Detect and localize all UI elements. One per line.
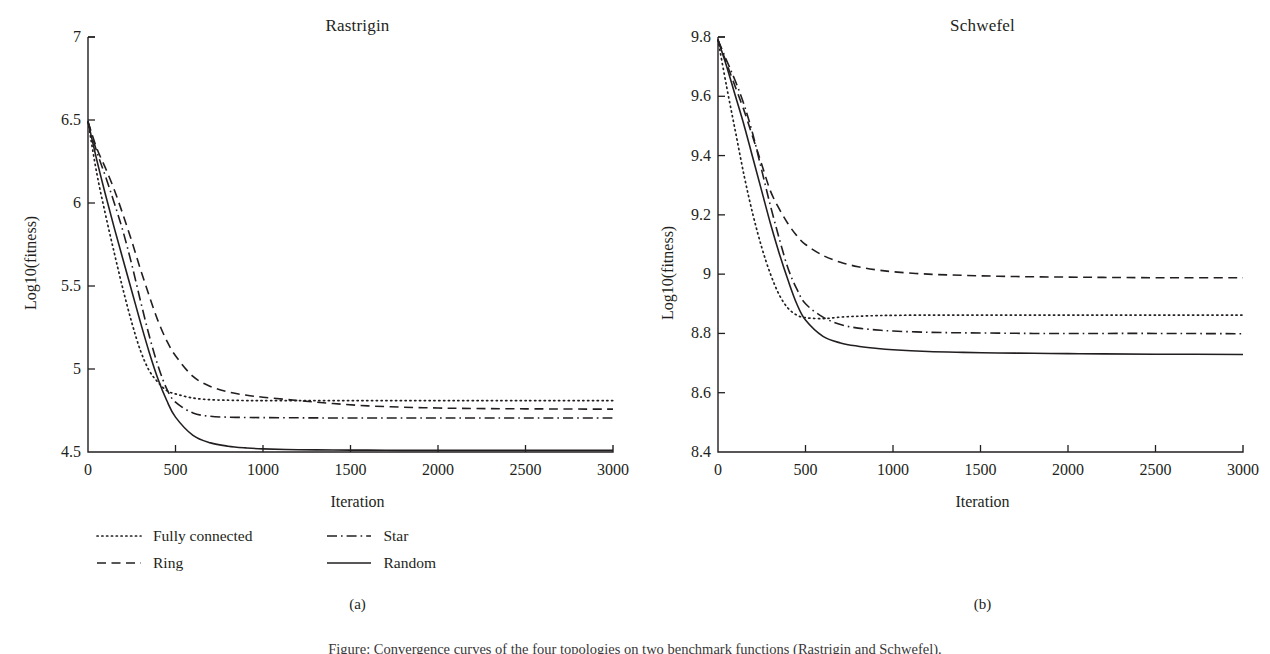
panel-subcaption: (b)	[635, 596, 1270, 613]
chart-panel-schwefel: Schwefel Log10(fitness) 8.48.68.899.29.4…	[635, 0, 1270, 654]
y-tick-label: 4.5	[61, 443, 81, 461]
legend-item-ring[interactable]: Ring	[96, 554, 252, 572]
x-tick-label: 3000	[1227, 461, 1259, 479]
series-line-star	[88, 122, 613, 418]
plot-area: 8.48.68.899.29.49.69.8050010001500200025…	[718, 37, 1243, 452]
figure-container: Rastrigin Log10(fitness) 4.555.566.57050…	[0, 0, 1270, 654]
x-tick-label: 2500	[1140, 461, 1172, 479]
y-tick-label: 8.4	[691, 443, 711, 461]
y-tick-label: 7	[73, 28, 81, 46]
x-tick-label: 2000	[422, 461, 454, 479]
series-line-ring	[718, 40, 1243, 278]
legend-item-star[interactable]: Star	[326, 527, 436, 545]
y-tick-label: 6	[73, 194, 81, 212]
series-line-fully-connected	[88, 122, 613, 401]
legend-label: Star	[383, 527, 408, 545]
panel-subcaption: (a)	[0, 596, 675, 613]
legend-label: Fully connected	[153, 527, 252, 545]
y-tick-label: 9	[703, 265, 711, 283]
x-tick-label: 0	[714, 461, 722, 479]
chart-title: Schwefel	[635, 16, 1270, 36]
series-line-random	[718, 40, 1243, 355]
plot-area: 4.555.566.57050010001500200025003000	[88, 37, 613, 452]
legend-line-dashed-icon	[96, 557, 142, 569]
figure-caption: Figure: Convergence curves of the four t…	[0, 641, 1270, 654]
legend-item-fully-connected[interactable]: Fully connected	[96, 527, 252, 545]
series-line-fully-connected	[718, 40, 1243, 319]
legend-line-solid-icon	[326, 557, 372, 569]
legend-line-dotted-icon	[96, 530, 142, 542]
y-tick-label: 9.8	[691, 28, 711, 46]
x-tick-label: 500	[794, 461, 818, 479]
legend-line-dashdot-icon	[326, 530, 372, 542]
y-axis-label: Log10(fitness)	[659, 226, 677, 320]
y-tick-label: 9.6	[691, 87, 711, 105]
x-tick-label: 1500	[965, 461, 997, 479]
x-tick-label: 1000	[247, 461, 279, 479]
y-tick-label: 9.4	[691, 147, 711, 165]
legend-label: Ring	[153, 554, 183, 572]
x-axis-label: Iteration	[0, 493, 675, 511]
x-tick-label: 500	[164, 461, 188, 479]
y-tick-label: 8.6	[691, 384, 711, 402]
x-tick-label: 3000	[597, 461, 629, 479]
series-line-star	[718, 40, 1243, 334]
x-tick-label: 2000	[1052, 461, 1084, 479]
chart-legend: Fully connectedStarRingRandom	[96, 527, 436, 572]
y-tick-label: 5	[73, 360, 81, 378]
chart-panel-rastrigin: Rastrigin Log10(fitness) 4.555.566.57050…	[0, 0, 635, 654]
x-axis-label: Iteration	[635, 493, 1270, 511]
y-tick-label: 6.5	[61, 111, 81, 129]
x-tick-label: 2500	[510, 461, 542, 479]
y-tick-label: 9.2	[691, 206, 711, 224]
legend-label: Random	[383, 554, 436, 572]
y-tick-label: 5.5	[61, 277, 81, 295]
chart-title: Rastrigin	[0, 16, 675, 36]
x-tick-label: 0	[84, 461, 92, 479]
x-tick-label: 1500	[335, 461, 367, 479]
x-tick-label: 1000	[877, 461, 909, 479]
legend-item-random[interactable]: Random	[326, 554, 436, 572]
series-line-ring	[88, 122, 613, 410]
y-axis-label: Log10(fitness)	[22, 216, 40, 310]
y-tick-label: 8.8	[691, 324, 711, 342]
